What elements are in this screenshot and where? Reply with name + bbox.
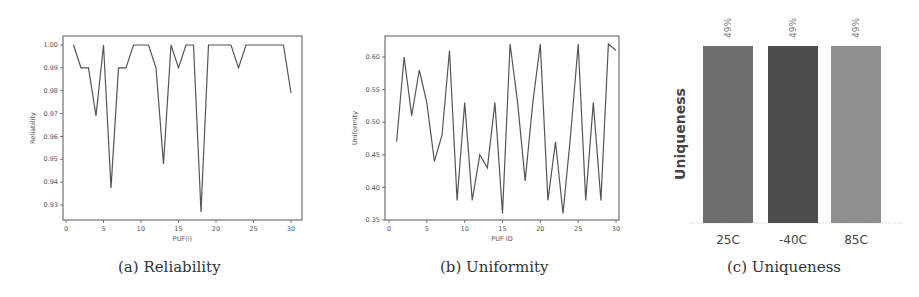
uniformity-xtick-label: 0 [387,225,391,233]
reliability-panel: 0510152025300.930.940.950.960.970.980.99… [0,0,310,297]
reliability-xtick-label: 20 [212,225,220,233]
reliability-ytick-label: 1.00 [44,41,58,49]
uniqueness-value-label: 49% [788,18,798,38]
reliability-xtick-label: 30 [287,225,295,233]
uniformity-y-axis-label: Uniformity [351,111,359,145]
reliability-xtick-label: 25 [249,225,257,233]
uniformity-ytick-label: 0.35 [366,216,380,224]
reliability-ytick-label: 0.99 [44,64,58,72]
reliability-ytick-label: 0.94 [44,178,58,186]
uniformity-xtick-label: 5 [425,225,429,233]
uniformity-caption: (b) Uniformity [440,258,548,276]
uniformity-xtick-label: 30 [612,225,620,233]
uniqueness-y-axis-label: Uniqueness [672,88,688,180]
uniformity-panel: 0510152025300.350.400.450.500.550.60PUF … [310,0,620,297]
uniqueness-category-label: 25C [716,233,740,247]
reliability-xtick-label: 5 [101,225,105,233]
uniformity-data-line [397,44,616,214]
uniqueness-value-label: 49% [723,18,733,38]
uniqueness-value-label: 49% [851,18,861,38]
reliability-ytick-label: 0.93 [44,201,58,209]
uniformity-ytick-label: 0.45 [366,151,380,159]
uniqueness-panel: 49%25C49%-40C49%85CUniqueness (c) Unique… [620,0,919,297]
uniqueness-bar-minus40c [768,46,818,223]
reliability-ytick-label: 0.96 [44,133,58,141]
uniformity-xtick-label: 10 [461,225,469,233]
uniformity-xtick-label: 15 [498,225,506,233]
uniformity-xtick-label: 25 [574,225,582,233]
reliability-ytick-label: 0.98 [44,87,58,95]
uniformity-ytick-label: 0.60 [366,53,380,61]
uniformity-xtick-label: 20 [536,225,544,233]
uniqueness-bar-25c [703,46,753,223]
uniqueness-category-label: 85C [844,233,868,247]
uniformity-axes-frame [385,36,619,220]
reliability-y-axis-label: Reliability [29,112,37,144]
reliability-axes-frame [63,36,302,220]
uniqueness-caption: (c) Uniqueness [727,258,841,276]
uniformity-ytick-label: 0.50 [366,118,380,126]
reliability-data-line [74,45,292,212]
uniqueness-category-label: -40C [779,233,807,247]
uniformity-ytick-label: 0.55 [366,86,380,94]
reliability-ytick-label: 0.97 [44,110,58,118]
reliability-xtick-label: 0 [64,225,68,233]
reliability-xtick-label: 10 [137,225,145,233]
reliability-caption: (a) Reliability [118,258,221,276]
uniqueness-bar-85c [831,46,881,223]
uniformity-ytick-label: 0.40 [366,184,380,192]
reliability-line-chart: 0510152025300.930.940.950.960.970.980.99… [0,0,310,297]
reliability-xtick-label: 15 [174,225,182,233]
uniformity-x-axis-label: PUF ID [491,235,512,243]
reliability-ytick-label: 0.95 [44,155,58,163]
uniformity-line-chart: 0510152025300.350.400.450.500.550.60PUF … [310,0,620,297]
reliability-x-axis-label: PUF(i) [173,235,192,243]
uniqueness-bar-chart: 49%25C49%-40C49%85CUniqueness [620,0,919,297]
